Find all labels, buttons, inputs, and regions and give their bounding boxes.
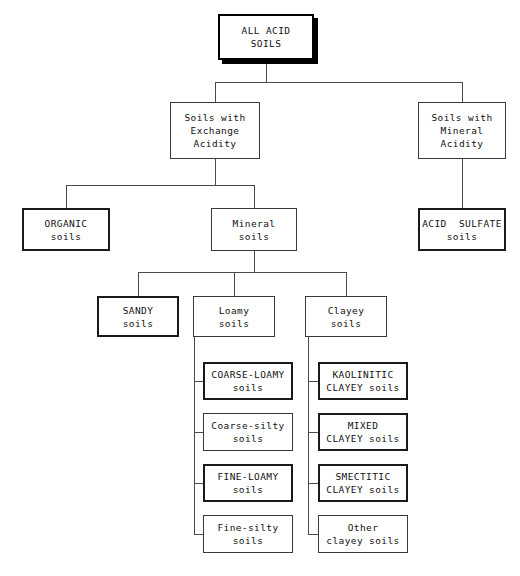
- node-fine-loamy-soils: FINE-LOAMYsoils: [203, 464, 293, 502]
- node-mixed-clayey-soils: MIXEDCLAYEY soils: [318, 413, 408, 451]
- node-label-line: soils: [239, 230, 270, 243]
- connector-clayey-stub-1: [308, 381, 318, 382]
- connector-mineral-bus: [138, 272, 346, 273]
- node-soils-with-exchange-acidity: Soils withExchangeAcidity: [170, 102, 260, 159]
- connector-drop-loamy: [234, 272, 235, 296]
- node-label-line: soils: [331, 317, 362, 330]
- connector-loamy-stub-2: [194, 432, 203, 433]
- node-label-line: ALL ACID: [242, 24, 291, 37]
- node-label-line: SOILS: [251, 37, 282, 50]
- node-coarse-loamy-soils: COARSE-LOAMYsoils: [203, 362, 293, 400]
- node-label-line: Coarse-silty: [211, 419, 284, 432]
- connector-loamy-stub-3: [194, 483, 203, 484]
- node-sandy-soils: SANDYsoils: [97, 296, 179, 337]
- connector-drop-sandy: [138, 272, 139, 296]
- connector-drop-mineral-acidity: [462, 82, 463, 102]
- node-label-line: soils: [447, 230, 478, 243]
- node-label-line: SANDY: [123, 304, 154, 317]
- connector-exchange-stem: [215, 159, 216, 185]
- connector-mineral-soils-stem: [254, 251, 255, 272]
- connector-drop-mineral-soils: [254, 185, 255, 208]
- node-other-clayey-soils: Otherclayey soils: [318, 515, 408, 553]
- node-label-line: Soils with: [184, 111, 245, 124]
- connector-clayey-stub-3: [308, 483, 318, 484]
- node-all-acid-soils: ALL ACIDSOILS: [218, 14, 314, 60]
- node-fine-silty-soils: Fine-siltysoils: [203, 515, 293, 553]
- node-soils-with-mineral-acidity: Soils withMineralAcidity: [418, 102, 506, 159]
- node-label-line: COARSE-LOAMY: [211, 368, 284, 381]
- node-loamy-soils: Loamysoils: [193, 296, 275, 337]
- node-kaolinitic-clayey-soils: KAOLINITICCLAYEY soils: [318, 362, 408, 400]
- node-smectitic-clayey-soils: SMECTITICCLAYEY soils: [318, 464, 408, 502]
- connector-clayey-stub-4: [308, 534, 318, 535]
- node-label-line: soils: [233, 381, 264, 394]
- node-label-line: clayey soils: [326, 534, 399, 547]
- node-organic-soils: ORGANICsoils: [22, 208, 110, 251]
- node-label-line: Fine-silty: [217, 521, 278, 534]
- node-label-line: Soils with: [431, 111, 492, 124]
- connector-drop-organic: [66, 185, 67, 208]
- node-label-line: soils: [51, 230, 82, 243]
- node-label-line: Acidity: [194, 137, 237, 150]
- connector-exchange-bus: [66, 185, 254, 186]
- node-label-line: soils: [219, 317, 250, 330]
- node-label-line: Exchange: [191, 124, 240, 137]
- node-clayey-soils: Clayeysoils: [305, 296, 387, 337]
- node-label-line: KAOLINITIC: [332, 368, 393, 381]
- connector-mineral-acidity-stem: [462, 159, 463, 208]
- node-label-line: Mineral: [441, 124, 484, 137]
- connector-root-bus: [215, 82, 462, 83]
- node-label-line: soils: [123, 317, 154, 330]
- connector-loamy-stub-4: [194, 534, 203, 535]
- node-acid-sulfate-soils: ACID SULFATEsoils: [418, 208, 506, 251]
- node-label-line: MIXED: [348, 419, 379, 432]
- connector-loamy-spine: [194, 337, 195, 534]
- connector-loamy-stub-1: [194, 381, 203, 382]
- node-label-line: Other: [348, 521, 379, 534]
- node-label-line: soils: [233, 534, 264, 547]
- connector-clayey-stub-2: [308, 432, 318, 433]
- node-label-line: CLAYEY soils: [326, 432, 399, 445]
- connector-drop-clayey: [346, 272, 347, 296]
- node-label-line: soils: [233, 483, 264, 496]
- node-label-line: Clayey: [328, 304, 365, 317]
- node-label-line: ACID SULFATE: [422, 217, 502, 230]
- node-label-line: Loamy: [219, 304, 250, 317]
- node-label-line: SMECTITIC: [335, 470, 390, 483]
- node-label-line: ORGANIC: [45, 217, 88, 230]
- node-label-line: CLAYEY soils: [326, 483, 399, 496]
- node-coarse-silty-soils: Coarse-siltysoils: [203, 413, 293, 451]
- connector-root-stem: [266, 60, 267, 82]
- node-label-line: FINE-LOAMY: [217, 470, 278, 483]
- node-label-line: CLAYEY soils: [326, 381, 399, 394]
- connector-drop-exchange: [215, 82, 216, 102]
- node-label-line: Mineral: [233, 217, 276, 230]
- acid-soils-classification-diagram: ALL ACIDSOILSSoils withExchangeAciditySo…: [0, 0, 520, 576]
- node-label-line: Acidity: [441, 137, 484, 150]
- node-label-line: soils: [233, 432, 264, 445]
- node-mineral-soils: Mineralsoils: [211, 208, 297, 251]
- connector-clayey-spine: [308, 337, 309, 534]
